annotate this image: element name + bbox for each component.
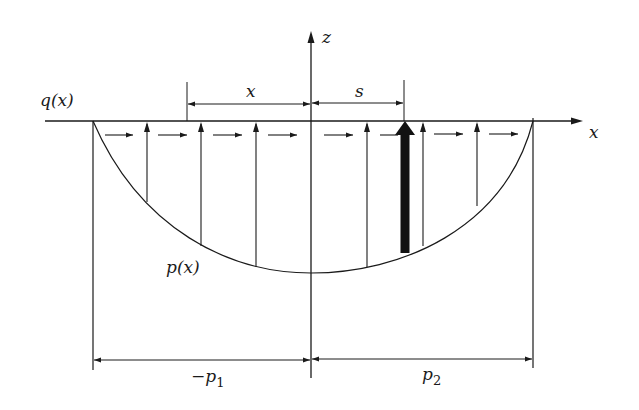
concentrated-load-arrow [395, 121, 415, 253]
pressure-curve [93, 121, 533, 273]
arrowhead-up-icon [198, 122, 204, 132]
z-axis-arrowhead-icon [308, 31, 315, 43]
contact-diagram: z x q(x) p(x) x s −p1 p2 [0, 0, 639, 410]
arrowhead-up-icon [420, 122, 426, 132]
dimension-s-label: s [355, 81, 364, 101]
pressure-arrows [144, 122, 480, 267]
arrowhead-up-icon [364, 122, 370, 132]
left-half-width-main: −p [191, 366, 216, 386]
arrowhead-up-icon [253, 122, 259, 132]
pressure-label: p(x) [166, 257, 200, 277]
dimension-x-label: x [246, 81, 256, 101]
arrowhead-up-icon [474, 122, 480, 132]
thick-arrowhead-icon [395, 121, 415, 135]
left-half-width-subscript: 1 [216, 375, 224, 390]
arrowhead-up-icon [144, 122, 150, 132]
x-axis [45, 118, 583, 125]
x-axis-arrowhead-icon [571, 118, 583, 125]
traction-label: q(x) [40, 90, 74, 110]
right-half-width-label: p2 [422, 364, 441, 388]
z-axis-label: z [321, 27, 332, 47]
dimension-bottom [94, 359, 532, 360]
right-half-width-main: p [422, 364, 433, 384]
x-axis-label: x [589, 122, 599, 142]
right-half-width-subscript: 2 [433, 373, 441, 388]
boundary-lines [93, 118, 533, 370]
z-axis [308, 31, 315, 378]
left-half-width-label: −p1 [191, 366, 224, 390]
